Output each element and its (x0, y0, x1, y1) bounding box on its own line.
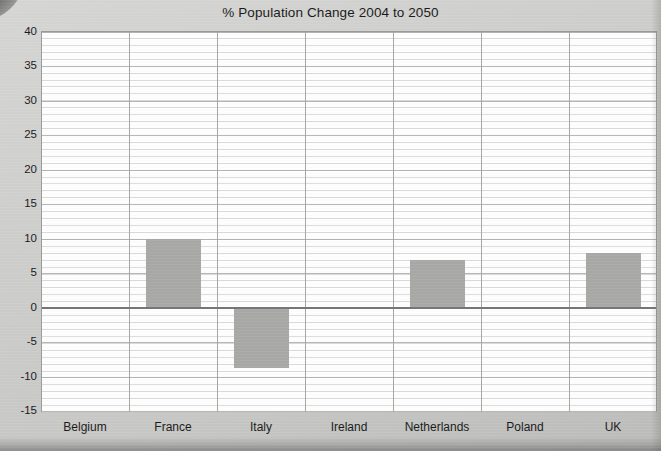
y-tick-label: 40 (3, 25, 37, 37)
y-tick-label: 0 (3, 301, 37, 313)
gridline-15 (42, 204, 656, 205)
gridline-5 (42, 273, 656, 274)
chart-title: % Population Change 2004 to 2050 (0, 5, 661, 20)
y-tick-label: 10 (3, 232, 37, 244)
y-tick-label: 35 (3, 59, 37, 71)
gridline-20 (42, 170, 656, 171)
gridline--10 (42, 377, 656, 378)
gridline-40 (42, 32, 656, 33)
y-tick-label: -15 (3, 404, 37, 416)
x-tick-label: France (129, 414, 217, 442)
bar-france (146, 239, 201, 308)
gridline-10 (42, 239, 656, 240)
bar-uk (586, 253, 641, 308)
category-divider (217, 32, 218, 412)
y-tick-label: -5 (3, 335, 37, 347)
zero-axis-line (42, 307, 656, 309)
plot-surface (41, 31, 657, 412)
y-tick-label: 20 (3, 163, 37, 175)
gridline--15 (42, 411, 656, 412)
bar-italy (234, 308, 289, 368)
category-divider (129, 32, 130, 412)
y-tick-label: 30 (3, 94, 37, 106)
gridline--5 (42, 342, 656, 343)
category-divider (393, 32, 394, 412)
x-tick-label: Netherlands (393, 414, 481, 442)
x-axis: BelgiumFranceItalyIrelandNetherlandsPola… (41, 414, 657, 442)
gridline-35 (42, 66, 656, 67)
y-tick-label: 15 (3, 197, 37, 209)
x-tick-label: Poland (481, 414, 569, 442)
y-tick-label: 25 (3, 128, 37, 140)
category-divider (481, 32, 482, 412)
x-tick-label: Italy (217, 414, 305, 442)
gridline-25 (42, 135, 656, 136)
y-tick-label: -10 (3, 370, 37, 382)
category-divider (569, 32, 570, 412)
y-tick-label: 5 (3, 266, 37, 278)
chart-container: % Population Change 2004 to 2050 4035302… (0, 0, 661, 451)
x-tick-label: UK (569, 414, 657, 442)
x-tick-label: Belgium (41, 414, 129, 442)
category-divider (305, 32, 306, 412)
bar-netherlands (410, 260, 465, 308)
gridline-30 (42, 101, 656, 102)
y-axis: 4035302520151050-5-10-15 (0, 0, 37, 451)
x-tick-label: Ireland (305, 414, 393, 442)
